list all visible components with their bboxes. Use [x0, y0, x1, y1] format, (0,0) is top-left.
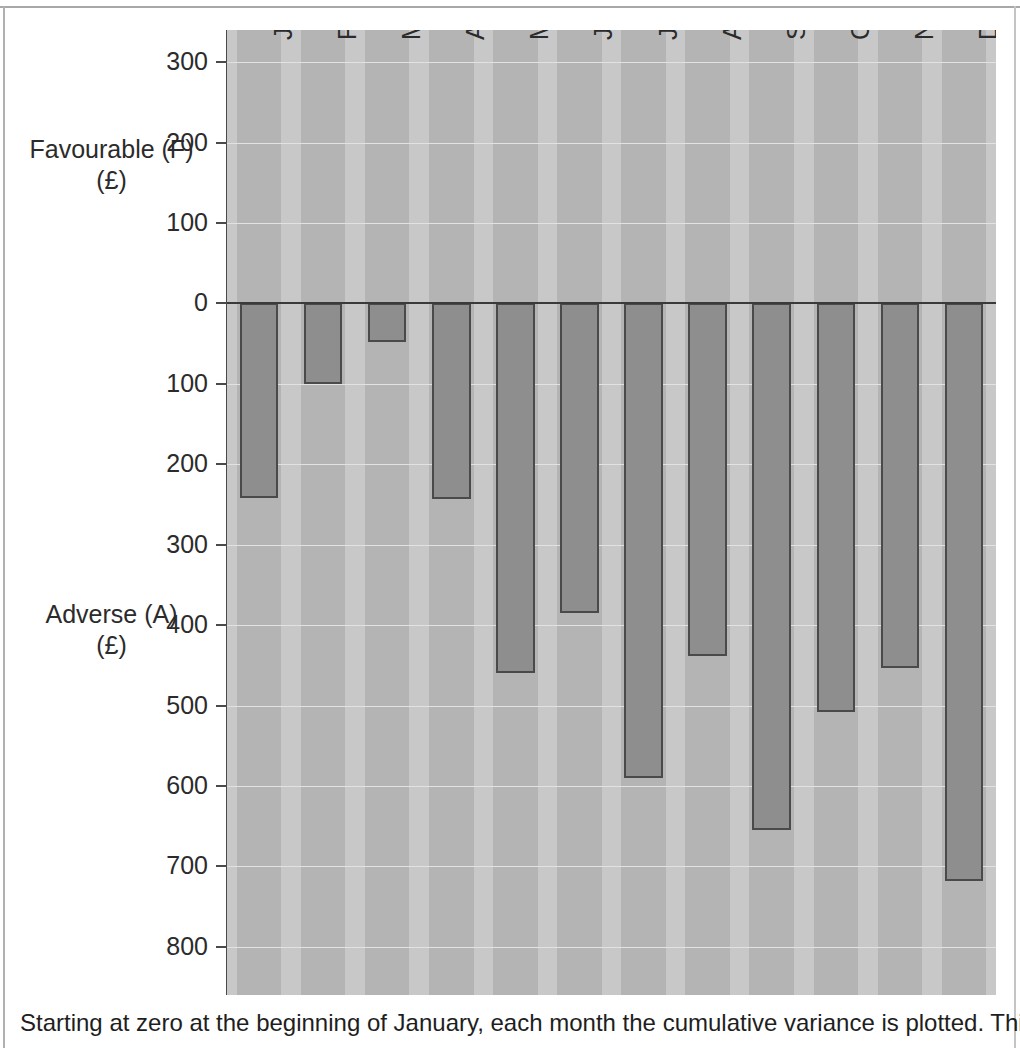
category-label: Dec — [974, 30, 996, 40]
bar[interactable] — [560, 303, 598, 613]
y-axis-tick — [216, 142, 227, 144]
background-band — [301, 30, 345, 995]
y-axis-tick-labels: 3002001000100200300400500600700800 — [104, 0, 208, 1000]
y-axis-tick — [216, 383, 227, 385]
cumulative-variance-chart: Favourable (F) (£) Adverse (A) (£) 30020… — [0, 0, 1020, 1000]
bar[interactable] — [432, 303, 470, 498]
y-axis-tick-label: 200 — [108, 130, 208, 155]
y-axis-tick-label: 200 — [108, 451, 208, 476]
gridline — [227, 143, 996, 144]
plot-area: JanFebMarAprMayJuneJulyAugSeptOctNovDec — [227, 30, 996, 995]
bar[interactable] — [688, 303, 726, 655]
background-band — [365, 30, 409, 995]
y-axis-tick-label: 100 — [108, 210, 208, 235]
bar[interactable] — [881, 303, 919, 667]
y-axis-tick — [216, 785, 227, 787]
gridline — [227, 223, 996, 224]
bar[interactable] — [496, 303, 534, 673]
y-axis-tick-label: 700 — [108, 853, 208, 878]
y-axis-tick — [216, 705, 227, 707]
y-axis-tick — [216, 61, 227, 63]
y-axis-tick — [216, 463, 227, 465]
category-label: Jan — [269, 30, 298, 40]
category-label: Oct — [846, 30, 875, 40]
category-label: Mar — [397, 30, 426, 40]
y-axis-tick — [216, 302, 227, 304]
y-axis-tick — [216, 865, 227, 867]
background-band — [429, 30, 473, 995]
background-band — [237, 30, 281, 995]
y-axis-tick-label: 500 — [108, 693, 208, 718]
category-label: Nov — [910, 30, 939, 40]
y-axis-tick-label: 400 — [108, 612, 208, 637]
category-label: Aug — [718, 30, 747, 40]
y-axis-tick-label: 100 — [108, 371, 208, 396]
y-axis-tick-label: 300 — [108, 49, 208, 74]
gridline — [227, 786, 996, 787]
bar[interactable] — [624, 303, 662, 777]
category-label: June — [589, 30, 618, 40]
category-label: Sept — [782, 30, 811, 40]
figure-caption: Starting at zero at the beginning of Jan… — [20, 1008, 1005, 1038]
bar[interactable] — [304, 303, 342, 383]
y-axis-tick — [216, 946, 227, 948]
category-label: July — [654, 30, 683, 40]
y-axis-tick — [216, 624, 227, 626]
gridline — [227, 706, 996, 707]
y-axis-tick-label: 0 — [108, 290, 208, 315]
bar[interactable] — [945, 303, 983, 880]
bar[interactable] — [752, 303, 790, 830]
gridline — [227, 866, 996, 867]
y-axis-tick-label: 800 — [108, 934, 208, 959]
bar[interactable] — [368, 303, 406, 342]
y-axis-tick — [216, 222, 227, 224]
y-axis-tick-label: 600 — [108, 773, 208, 798]
category-label: Apr — [461, 30, 490, 40]
y-axis-tick-label: 300 — [108, 532, 208, 557]
y-axis-tick — [216, 544, 227, 546]
bar[interactable] — [817, 303, 855, 712]
gridline — [227, 947, 996, 948]
bar[interactable] — [240, 303, 278, 498]
page-root: Favourable (F) (£) Adverse (A) (£) 30020… — [0, 0, 1020, 1048]
gridline — [227, 62, 996, 63]
category-label: May — [525, 30, 554, 40]
category-label: Feb — [333, 30, 362, 40]
zero-baseline — [227, 302, 996, 304]
